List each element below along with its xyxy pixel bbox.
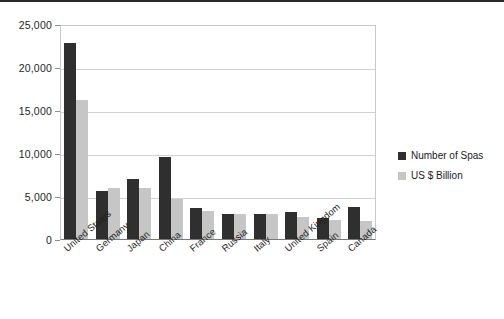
y-axis-tick-label: 15,000	[0, 106, 52, 116]
y-axis-tick-mark	[55, 68, 60, 69]
bar[interactable]	[127, 179, 139, 239]
bar-group[interactable]	[61, 26, 93, 239]
y-axis-tick-label: 20,000	[0, 63, 52, 73]
y-axis-tick-mark	[55, 25, 60, 26]
y-axis-tick-mark	[55, 197, 60, 198]
legend-swatch-icon	[398, 172, 406, 180]
bar[interactable]	[266, 214, 278, 239]
bar-chart: 05,00010,00015,00020,00025,000 United St…	[0, 0, 504, 319]
legend-item-label: US $ Billion	[411, 170, 463, 181]
bar-group[interactable]	[156, 26, 188, 239]
legend-item[interactable]: US $ Billion	[398, 170, 502, 181]
y-axis-tick-label: 0	[0, 235, 52, 245]
bar-group[interactable]	[282, 26, 314, 239]
legend-item-label: Number of Spas	[411, 150, 483, 161]
bar-group[interactable]	[219, 26, 251, 239]
y-axis-tick-label: 25,000	[0, 20, 52, 30]
chart-legend: Number of SpasUS $ Billion	[398, 150, 502, 190]
bar-group[interactable]	[345, 26, 377, 239]
bar-group[interactable]	[251, 26, 283, 239]
bar[interactable]	[64, 43, 76, 239]
y-axis-tick-mark	[55, 240, 60, 241]
bar[interactable]	[76, 100, 88, 239]
bar-group[interactable]	[124, 26, 156, 239]
legend-item[interactable]: Number of Spas	[398, 150, 502, 161]
y-axis-tick-mark	[55, 111, 60, 112]
y-axis-tick-mark	[55, 154, 60, 155]
legend-swatch-icon	[398, 152, 406, 160]
bar-group[interactable]	[187, 26, 219, 239]
y-axis-tick-label: 10,000	[0, 149, 52, 159]
bar-group[interactable]	[93, 26, 125, 239]
y-axis-tick-label: 5,000	[0, 192, 52, 202]
bar[interactable]	[159, 157, 171, 239]
